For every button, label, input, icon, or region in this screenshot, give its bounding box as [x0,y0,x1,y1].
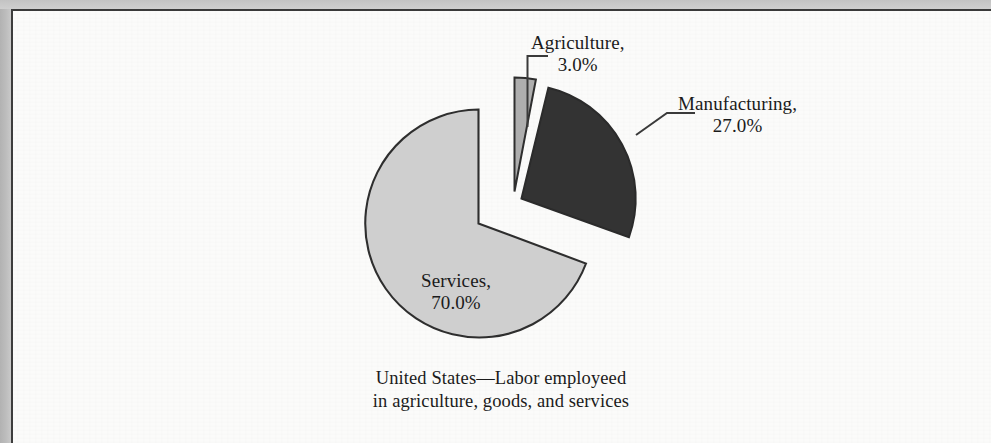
manufacturing-label-line2: 27.0% [678,115,797,137]
slice-label-services: Services, 70.0% [421,270,491,315]
page-area: Agriculture, 3.0% Manufacturing, 27.0% S… [11,9,991,443]
agriculture-label-line2: 3.0% [531,54,625,76]
caption-line-2: in agriculture, goods, and services [11,390,991,413]
figure-caption: United States—Labor employeed in agricul… [11,367,991,414]
slice-label-agriculture: Agriculture, 3.0% [531,32,625,77]
scanned-page: Agriculture, 3.0% Manufacturing, 27.0% S… [0,0,991,443]
slice-label-manufacturing: Manufacturing, 27.0% [678,93,797,138]
services-label-line2: 70.0% [421,292,491,314]
manufacturing-label-line1: Manufacturing, [678,93,797,115]
pie-chart-figure: Agriculture, 3.0% Manufacturing, 27.0% S… [11,9,991,443]
pie-slice-manufacturing [522,88,636,238]
caption-line-1: United States—Labor employeed [11,367,991,390]
services-label-line1: Services, [421,270,491,292]
scan-margin-left [0,0,11,443]
agriculture-label-line1: Agriculture, [531,32,625,54]
scan-margin-top [0,0,991,9]
